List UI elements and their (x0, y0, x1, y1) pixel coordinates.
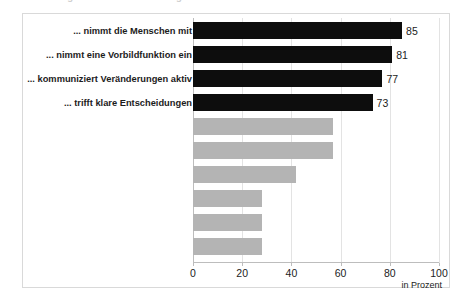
bar-value-label: 85 (406, 19, 418, 43)
chart-frame: ... nimmt die Menschen mit85... nimmt ei… (22, 13, 450, 288)
bar-row[interactable] (23, 163, 451, 187)
bar-category-label: ... nimmt die Menschen mit (73, 19, 192, 43)
x-axis-title: in Prozent (401, 280, 442, 290)
bar-row[interactable] (23, 211, 451, 235)
clipped-page-header: Abbildung g r (0, 0, 462, 3)
clipped-header-fragment-2: g (176, 0, 182, 2)
plot-area: ... nimmt die Menschen mit85... nimmt ei… (23, 14, 451, 263)
bar-row[interactable] (23, 187, 451, 211)
x-tick-label-80: 80 (370, 267, 410, 279)
bar[interactable] (193, 22, 402, 39)
x-tick-mark-40 (291, 263, 292, 266)
x-tick-mark-100 (439, 263, 440, 266)
bar[interactable] (193, 238, 262, 255)
bar[interactable] (193, 214, 262, 231)
x-axis-line (193, 262, 439, 263)
clipped-header-fragment-3: r (240, 0, 244, 2)
x-tick-label-60: 60 (321, 267, 361, 279)
x-tick-label-100: 100 (419, 267, 459, 279)
bar-row[interactable]: ... nimmt eine Vorbildfunktion ein81 (23, 43, 451, 67)
bar-value-label: 77 (386, 67, 398, 91)
bar[interactable] (193, 94, 373, 111)
bar[interactable] (193, 142, 333, 159)
x-tick-mark-60 (341, 263, 342, 266)
x-tick-mark-20 (242, 263, 243, 266)
bar-row[interactable]: ... trifft klare Entscheidungen73 (23, 91, 451, 115)
x-tick-mark-0 (193, 263, 194, 266)
bar-value-label: 73 (377, 91, 389, 115)
bar[interactable] (193, 70, 382, 87)
clipped-header-fragment-1: Abbildung (26, 0, 73, 2)
bar[interactable] (193, 166, 296, 183)
x-tick-label-20: 20 (222, 267, 262, 279)
x-tick-mark-80 (390, 263, 391, 266)
bar[interactable] (193, 46, 392, 63)
bar-category-label: ... kommuniziert Veränderungen aktiv (27, 67, 192, 91)
bar-value-label: 81 (396, 43, 408, 67)
bar[interactable] (193, 118, 333, 135)
bar-category-label: ... trifft klare Entscheidungen (64, 91, 192, 115)
bar-row[interactable]: ... nimmt die Menschen mit85 (23, 19, 451, 43)
bar[interactable] (193, 190, 262, 207)
bar-row[interactable] (23, 235, 451, 259)
bar-category-label: ... nimmt eine Vorbildfunktion ein (46, 43, 192, 67)
bar-row[interactable] (23, 139, 451, 163)
bar-row[interactable]: ... kommuniziert Veränderungen aktiv77 (23, 67, 451, 91)
bar-row[interactable] (23, 115, 451, 139)
x-tick-label-40: 40 (271, 267, 311, 279)
x-tick-label-0: 0 (173, 267, 213, 279)
